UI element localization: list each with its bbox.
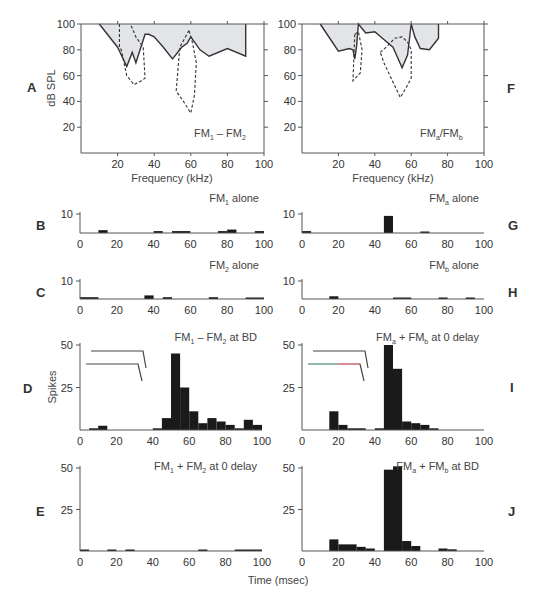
x-tick-label: 60	[405, 556, 417, 568]
histogram-bar	[171, 354, 180, 431]
y-tick-label: 25	[61, 504, 73, 516]
panel-title: FM1 alone	[209, 192, 259, 206]
histogram-bar	[384, 345, 393, 430]
stimulus-schematic-icon	[308, 351, 368, 381]
y-axis-label-db-spl: dB SPL	[45, 69, 57, 106]
panel-letter-j: J	[508, 504, 515, 519]
histogram-bar	[329, 411, 338, 430]
x-axis-label-frequency-f: Frequency (kHz)	[352, 172, 433, 184]
x-tick-label: 0	[77, 556, 83, 568]
y-axis-label-spikes: Spikes	[46, 370, 58, 404]
x-tick-label: 20	[111, 158, 123, 170]
y-tick-label: 20	[63, 121, 75, 133]
histogram-bar	[393, 369, 402, 430]
histogram-bar	[411, 423, 420, 430]
histogram-bar	[384, 470, 393, 551]
x-tick-label: 0	[77, 304, 83, 316]
x-tick-label: 60	[405, 304, 417, 316]
x-tick-label: 40	[369, 304, 381, 316]
panel-title: FM1 + FM2 at 0 delay	[154, 460, 257, 474]
x-tick-label: 20	[111, 238, 123, 250]
psth-plot-j: 2550020406080100FMa + FMb at BD	[283, 460, 493, 568]
y-tick-label: 50	[283, 462, 295, 474]
y-tick-label: 10	[283, 208, 295, 220]
x-tick-label: 20	[110, 556, 122, 568]
x-tick-label: 0	[299, 435, 305, 447]
x-tick-label: 20	[332, 435, 344, 447]
x-tick-label: 100	[475, 304, 493, 316]
x-tick-label: 60	[184, 304, 196, 316]
histogram-bar	[226, 425, 235, 430]
histogram-bar	[420, 425, 429, 430]
x-tick-label: 0	[299, 238, 305, 250]
x-tick-label: 40	[147, 556, 159, 568]
y-tick-label: 40	[284, 95, 296, 107]
x-tick-label: 20	[111, 304, 123, 316]
psth-plot-g: 10020406080100FMa alone	[283, 192, 493, 250]
panel-title: FMa + FMb at BD	[396, 460, 479, 474]
tuning-plot-f: 2040608010020406080100	[278, 18, 494, 170]
panel-title: FM1 – FM2 at BD	[175, 331, 257, 345]
x-tick-label: 40	[369, 435, 381, 447]
y-tick-label: 80	[63, 44, 75, 56]
histogram-bar	[411, 546, 420, 551]
panel-f-title: FMa/FMb	[420, 127, 463, 141]
figure: A B C D E F G H I J dB SPL Frequency (kH…	[0, 0, 534, 601]
y-tick-label: 10	[61, 208, 73, 220]
x-tick-label: 100	[475, 556, 493, 568]
x-tick-label: 80	[441, 304, 453, 316]
x-tick-label: 40	[147, 435, 159, 447]
plots-layer: 2040608010020406080100204060801002040608…	[57, 18, 494, 568]
x-tick-label: 100	[253, 556, 271, 568]
y-tick-label: 10	[283, 275, 295, 287]
x-tick-label: 20	[332, 158, 344, 170]
x-tick-label: 20	[332, 556, 344, 568]
x-tick-label: 20	[332, 238, 344, 250]
x-tick-label: 80	[441, 158, 453, 170]
x-tick-label: 100	[255, 304, 273, 316]
x-tick-label: 80	[441, 556, 453, 568]
x-tick-label: 80	[441, 435, 453, 447]
histogram-bar	[253, 425, 262, 430]
histogram-bar	[338, 425, 347, 430]
y-tick-label: 60	[63, 70, 75, 82]
x-tick-label: 40	[369, 238, 381, 250]
x-tick-label: 40	[147, 304, 159, 316]
x-tick-label: 0	[77, 238, 83, 250]
y-tick-label: 50	[283, 339, 295, 351]
histogram-bar	[198, 423, 207, 430]
x-tick-label: 20	[332, 304, 344, 316]
histogram-bar	[162, 418, 171, 430]
panel-a-title: FM1 – FM2	[194, 127, 246, 141]
x-tick-label: 60	[405, 435, 417, 447]
y-tick-label: 25	[61, 382, 73, 394]
panel-title: FMb alone	[429, 259, 479, 273]
histogram-bar	[402, 422, 411, 431]
y-tick-label: 25	[283, 504, 295, 516]
x-tick-label: 80	[221, 158, 233, 170]
psth-plot-d: 2550020406080100FM1 – FM2 at BD	[61, 331, 271, 447]
x-tick-label: 40	[369, 556, 381, 568]
histogram-bar	[98, 426, 107, 430]
x-tick-label: 60	[184, 238, 196, 250]
panel-letter-c: C	[36, 285, 46, 300]
x-tick-label: 80	[219, 556, 231, 568]
x-tick-label: 0	[77, 435, 83, 447]
x-tick-label: 60	[185, 158, 197, 170]
y-tick-label: 60	[284, 70, 296, 82]
x-tick-label: 80	[219, 435, 231, 447]
histogram-bar	[180, 388, 189, 431]
panel-letter-d: D	[23, 381, 32, 396]
histogram-bar	[227, 230, 236, 233]
x-tick-label: 100	[255, 158, 273, 170]
x-tick-label: 80	[221, 304, 233, 316]
psth-plot-b: 10020406080100FM1 alone	[61, 192, 273, 250]
y-tick-label: 10	[61, 275, 73, 287]
y-tick-label: 50	[61, 339, 73, 351]
histogram-bar	[384, 216, 393, 233]
histogram-bar	[207, 418, 216, 430]
x-tick-label: 60	[183, 435, 195, 447]
panel-letter-b: B	[36, 218, 45, 233]
y-tick-label: 50	[61, 462, 73, 474]
y-tick-label: 40	[63, 95, 75, 107]
